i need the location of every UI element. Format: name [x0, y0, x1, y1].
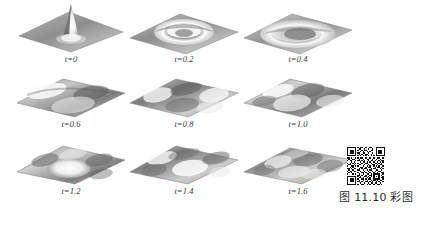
surface-plot-svg [238, 0, 358, 56]
surface-plot-t10 [238, 63, 358, 121]
surface-plot-svg [124, 63, 244, 121]
figure-container: t=0 [0, 0, 422, 228]
surface-plot-t0 [11, 0, 131, 56]
surface-plot-svg [11, 130, 131, 188]
figure-caption: 图 11.10 彩图 [330, 188, 422, 204]
surface-plot-svg [238, 63, 358, 121]
panel-label-t08: t=0.8 [124, 119, 244, 129]
surface-plot-t08 [124, 63, 244, 121]
panel-label-t10: t=1.0 [238, 119, 358, 129]
surface-panel: t=1.4 [124, 130, 244, 208]
surface-plot-t02 [124, 0, 244, 56]
surface-plot-t14 [124, 130, 244, 188]
panel-label-t12: t=1.2 [11, 186, 131, 196]
panel-label-t14: t=1.4 [124, 186, 244, 196]
surface-plot-svg [11, 63, 131, 121]
surface-plot-svg [124, 130, 244, 188]
surface-plot-t06 [11, 63, 131, 121]
panel-label-t06: t=0.6 [11, 119, 131, 129]
surface-plot-svg [238, 130, 358, 188]
qr-code-icon[interactable] [347, 147, 385, 185]
surface-panel: t=1.2 [11, 130, 131, 208]
surface-plot-svg [124, 0, 244, 56]
surface-plot-svg [11, 0, 131, 56]
surface-plot-t16 [238, 130, 358, 188]
qr-code-svg [347, 147, 385, 185]
surface-plot-t12 [11, 130, 131, 188]
surface-plot-t04 [238, 0, 358, 56]
